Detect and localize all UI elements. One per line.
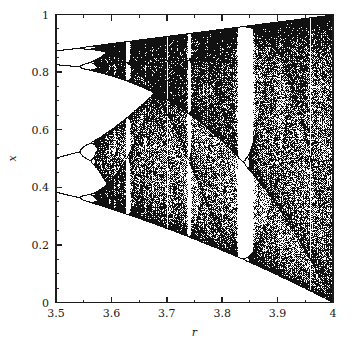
y-tick-label: 1: [42, 9, 49, 22]
x-tick-label: 3.6: [103, 307, 121, 320]
y-tick-label: 0: [42, 297, 49, 310]
y-tick-label: 0.6: [32, 124, 50, 137]
x-axis-title: r: [192, 326, 198, 339]
bifurcation-figure: 3.53.63.73.83.9400.20.40.60.81rx: [0, 0, 352, 349]
bifurcation-plot-svg: 3.53.63.73.83.9400.20.40.60.81rx: [0, 0, 352, 349]
x-tick-label: 3.9: [269, 307, 287, 320]
y-tick-label: 0.2: [32, 239, 50, 252]
y-tick-label: 0.8: [32, 66, 50, 79]
y-tick-label: 0.4: [32, 181, 50, 194]
x-tick-label: 4: [330, 307, 337, 320]
x-tick-label: 3.8: [213, 307, 231, 320]
y-axis-title: x: [6, 155, 19, 162]
attractor-points: [56, 15, 333, 302]
x-tick-label: 3.5: [47, 307, 65, 320]
attractor-point-cloud: [56, 15, 333, 302]
x-tick-label: 3.7: [158, 307, 176, 320]
